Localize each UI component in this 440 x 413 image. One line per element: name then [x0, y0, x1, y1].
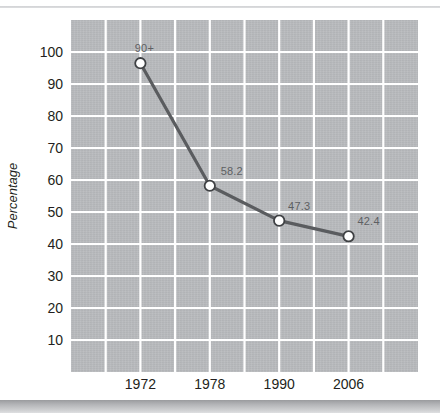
x-axis-tick-label: 2006: [333, 376, 364, 392]
x-axis-tick-label: 1972: [125, 376, 156, 392]
data-point-label: 47.3: [288, 200, 310, 212]
data-point-marker: [205, 181, 215, 191]
y-axis-tick-label: 80: [3, 108, 63, 124]
y-axis-tick-labels: 100908070605040302010: [0, 20, 63, 372]
y-axis-tick-label: 70: [3, 140, 63, 156]
data-point-label: 90+: [135, 42, 154, 54]
data-point-label: 42.4: [357, 215, 379, 227]
x-axis-tick-label: 1978: [194, 376, 225, 392]
y-axis-tick-label: 50: [3, 204, 63, 220]
plot-graphics: [71, 20, 418, 372]
data-point-label: 58.2: [221, 165, 243, 177]
y-axis-tick-label: 100: [3, 44, 63, 60]
data-point-marker: [343, 231, 353, 241]
bottom-grey-band: [0, 400, 440, 413]
x-axis-tick-label: 1990: [264, 376, 295, 392]
x-axis-tick-labels: 1972197819902006: [71, 376, 418, 398]
y-axis-tick-label: 40: [3, 236, 63, 252]
y-axis-tick-label: 20: [3, 300, 63, 316]
top-divider-rule: [0, 6, 440, 8]
plot-area: 90+58.247.342.4: [71, 20, 418, 372]
figure-canvas: Percentage 100908070605040302010 90+58.2…: [0, 0, 440, 413]
data-point-marker: [135, 58, 145, 68]
data-point-marker: [274, 215, 284, 225]
y-axis-tick-label: 10: [3, 332, 63, 348]
y-axis-tick-label: 60: [3, 172, 63, 188]
y-axis-tick-label: 90: [3, 76, 63, 92]
y-axis-tick-label: 30: [3, 268, 63, 284]
